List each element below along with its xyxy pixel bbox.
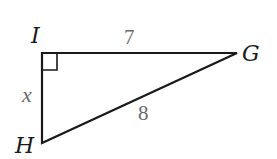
side-label-ig: 7 xyxy=(124,25,135,49)
vertex-label-h: H xyxy=(14,133,35,158)
vertex-label-i: I xyxy=(30,23,41,48)
triangle-ihg xyxy=(42,53,237,143)
vertex-label-g: G xyxy=(242,41,260,66)
right-triangle-diagram: I G H 7 x 8 xyxy=(0,0,277,159)
right-angle-marker xyxy=(42,53,57,70)
side-label-ih: x xyxy=(21,82,32,107)
side-label-hg: 8 xyxy=(138,101,149,125)
